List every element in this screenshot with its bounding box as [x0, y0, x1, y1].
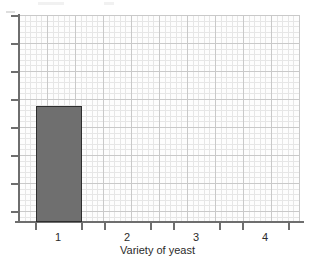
- y-axis-tick: [11, 183, 19, 185]
- x-tick-label-2: 2: [112, 231, 142, 244]
- x-tick-label-4: 4: [250, 231, 280, 244]
- scan-artifact: [104, 2, 114, 5]
- y-axis-tick: [11, 15, 19, 17]
- x-axis-tick: [242, 223, 244, 230]
- x-axis-tick: [173, 223, 175, 230]
- x-axis-tick: [150, 223, 152, 230]
- y-axis-tick: [11, 127, 19, 129]
- y-axis-line: [18, 14, 20, 223]
- y-axis-tick: [11, 211, 19, 213]
- y-axis-tick: [11, 155, 19, 157]
- scan-artifact: [38, 2, 64, 5]
- scan-artifact: [6, 11, 15, 13]
- x-axis-tick: [81, 223, 83, 230]
- x-axis-tick: [104, 223, 106, 230]
- y-axis-tick: [11, 99, 19, 101]
- y-axis-tick: [11, 71, 19, 73]
- x-tick-label-3: 3: [181, 231, 211, 244]
- x-axis-title: Variety of yeast: [0, 244, 315, 257]
- y-axis-tick: [11, 43, 19, 45]
- x-tick-label-1: 1: [43, 231, 73, 244]
- x-axis-tick: [288, 223, 290, 230]
- x-axis-tick: [35, 223, 37, 230]
- x-axis-tick: [219, 223, 221, 230]
- bar-variety-1: [36, 106, 82, 222]
- bar-chart-figure: 1 2 3 4 Variety of yeast: [0, 0, 315, 262]
